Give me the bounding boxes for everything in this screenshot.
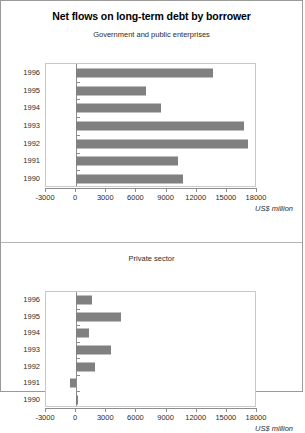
x-tick-label: 18000 [246, 193, 267, 202]
y-axis-tick [76, 391, 80, 392]
bar [76, 68, 213, 77]
x-axis-line [45, 188, 256, 189]
bar [70, 379, 76, 388]
y-tick-label: 1996 [23, 67, 40, 76]
y-tick-label: 1994 [23, 103, 40, 112]
y-tick-label: 1991 [23, 378, 40, 387]
bar [76, 122, 244, 131]
bar [76, 395, 78, 404]
y-tick-label: 1994 [23, 328, 40, 337]
y-axis-tick [76, 117, 80, 118]
y-tick-label: 1992 [23, 361, 40, 370]
bar [76, 346, 111, 355]
x-tick-label: 3000 [97, 193, 114, 202]
y-axis-tick [76, 170, 80, 171]
x-tick-label: 6000 [127, 193, 144, 202]
y-axis-tick [76, 342, 80, 343]
x-tick-label: 15000 [215, 413, 236, 422]
x-tick-label: 12000 [185, 193, 206, 202]
y-tick-label: 1996 [23, 295, 40, 304]
bar [76, 362, 95, 371]
bar [76, 175, 183, 184]
x-axis-line [45, 408, 256, 409]
x-axis-tick [256, 408, 257, 412]
y-axis-tick [76, 358, 80, 359]
x-tick-label: 15000 [215, 193, 236, 202]
y-tick-label: 1995 [23, 311, 40, 320]
y-axis-tick [76, 82, 80, 83]
y-axis-labels-private: 1996199519941993199219911990 [1, 291, 43, 407]
bar [76, 157, 177, 166]
x-tick-label: 6000 [127, 413, 144, 422]
chart-figure: Net flows on long-term debt by borrower … [0, 0, 303, 392]
y-tick-label: 1992 [23, 138, 40, 147]
x-axis-labels-private: -30000300060009000120001500018000 [45, 408, 256, 422]
bar [76, 86, 146, 95]
bar [76, 139, 248, 148]
bar [76, 329, 89, 338]
bar [76, 312, 121, 321]
panel-subtitle-private: Private sector [1, 254, 302, 263]
x-tick-label: 9000 [157, 193, 174, 202]
x-axis-tick [256, 188, 257, 192]
y-tick-label: 1991 [23, 156, 40, 165]
x-tick-label: 0 [73, 413, 77, 422]
y-tick-label: 1993 [23, 345, 40, 354]
y-axis-tick [76, 153, 80, 154]
y-axis-tick [76, 99, 80, 100]
y-tick-label: 1990 [23, 174, 40, 183]
x-tick-label: 12000 [185, 413, 206, 422]
y-axis-tick [76, 325, 80, 326]
y-tick-label: 1993 [23, 121, 40, 130]
panel-subtitle-government: Government and public enterprises [1, 30, 302, 39]
bar [76, 296, 92, 305]
plot-area-private [45, 291, 256, 407]
y-axis-labels-government: 1996199519941993199219911990 [1, 63, 43, 187]
y-tick-label: 1990 [23, 394, 40, 403]
x-tick-label: -3000 [35, 413, 54, 422]
panel-government: Government and public enterprises 199619… [1, 30, 302, 242]
y-axis-tick [76, 309, 80, 310]
x-axis-units-private: US$ million [255, 424, 293, 433]
x-tick-label: 0 [73, 193, 77, 202]
x-axis-units-government: US$ million [255, 204, 293, 213]
x-tick-label: 18000 [246, 413, 267, 422]
y-tick-label: 1995 [23, 85, 40, 94]
y-axis-tick [76, 135, 80, 136]
x-axis-labels-government: -30000300060009000120001500018000 [45, 188, 256, 202]
bar [76, 104, 160, 113]
x-tick-label: 9000 [157, 413, 174, 422]
y-axis-tick [76, 375, 80, 376]
panel-private: Private sector 1996199519941993199219911… [1, 242, 302, 420]
figure-title: Net flows on long-term debt by borrower [1, 10, 302, 22]
x-tick-label: 3000 [97, 413, 114, 422]
x-tick-label: -3000 [35, 193, 54, 202]
plot-area-government [45, 63, 256, 187]
